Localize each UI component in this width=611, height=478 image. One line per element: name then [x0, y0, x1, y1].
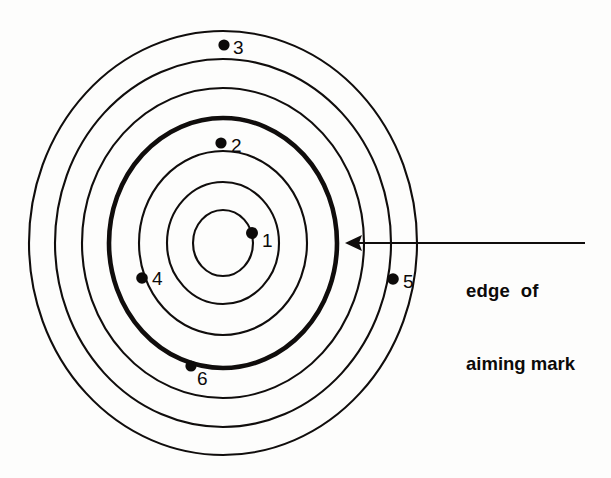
- shot-dot-5: [387, 273, 399, 285]
- shot-dot-6: [185, 360, 196, 371]
- shot-label-5: 5: [403, 271, 414, 292]
- shot-dot-3: [218, 39, 229, 50]
- annotation-line-2: aiming mark: [466, 352, 575, 376]
- shot-label-1: 1: [262, 230, 273, 251]
- shot-label-6: 6: [197, 368, 208, 389]
- ring-bullseye: [193, 210, 253, 276]
- ring-aiming-mark-edge: [109, 118, 337, 368]
- annotation-edge-of-aiming-mark: edge of aiming mark: [466, 230, 575, 425]
- figure-root: 123456 edge of aiming mark: [0, 0, 611, 478]
- shot-dot-4: [136, 272, 148, 284]
- shot-dot-2: [215, 137, 226, 148]
- ring-outer-2: [55, 59, 391, 427]
- shot-dot-1: [246, 227, 258, 239]
- shot-label-4: 4: [152, 268, 163, 289]
- annotation-line-1: edge of: [466, 279, 575, 303]
- shot-label-3: 3: [233, 37, 244, 58]
- ring-outer-3: [82, 88, 364, 398]
- shot-marks-group: 123456: [136, 37, 413, 389]
- shot-label-2: 2: [231, 135, 242, 156]
- ring-inner-2: [139, 151, 307, 335]
